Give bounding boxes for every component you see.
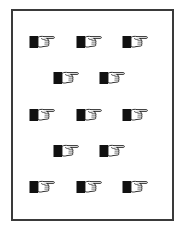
pointing-hand-icon bbox=[122, 180, 149, 194]
pointing-hand-icon bbox=[122, 108, 149, 122]
pointing-hand-icon bbox=[99, 71, 126, 85]
pointing-hand-icon bbox=[76, 35, 103, 49]
pointing-hand-icon bbox=[76, 108, 103, 122]
pointing-hand-icon bbox=[53, 71, 80, 85]
pointing-hand-icon bbox=[29, 108, 56, 122]
pointing-hand-icon bbox=[29, 35, 56, 49]
pointing-hand-icon bbox=[76, 180, 103, 194]
pointing-hand-icon bbox=[99, 144, 126, 158]
pointing-hand-icon bbox=[29, 180, 56, 194]
card bbox=[11, 9, 174, 221]
pointing-hand-icon bbox=[53, 144, 80, 158]
pointing-hand-icon bbox=[122, 35, 149, 49]
